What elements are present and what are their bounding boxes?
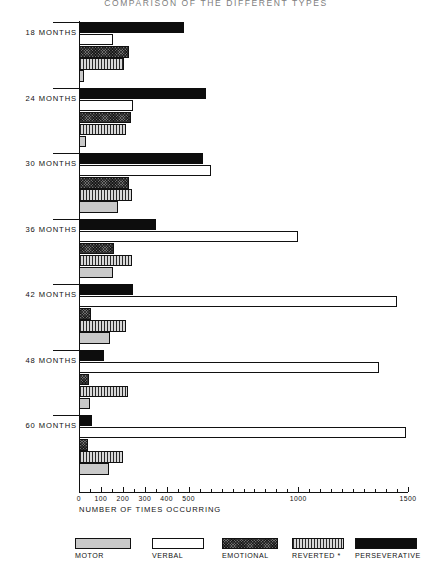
- bar-emot: [79, 308, 91, 319]
- bar-motor: [79, 463, 109, 474]
- x-tick-major: [79, 487, 80, 492]
- x-tick-minor: [342, 489, 343, 492]
- bar-rev: [79, 451, 123, 462]
- x-tick-minor: [112, 489, 113, 492]
- x-tick-minor: [134, 489, 135, 492]
- legend-item-persev[interactable]: PERSEVERATIVE: [355, 538, 417, 560]
- bar-motor: [79, 136, 86, 147]
- legend-label: VERBAL: [152, 552, 204, 560]
- legend-label: PERSEVERATIVE: [355, 552, 417, 560]
- x-tick-major: [408, 487, 409, 492]
- chart-title: COMPARISON OF THE DIFFERENT TYPES: [0, 0, 432, 8]
- x-tick-minor: [309, 489, 310, 492]
- legend-swatch-verbal: [152, 538, 204, 549]
- bar-motor: [79, 70, 84, 81]
- plot-area: 18 MONTHS24 MONTHS30 MONTHS36 MONTHS42 M…: [0, 18, 432, 490]
- x-axis: NUMBER OF TIMES OCCURRING 01002003004005…: [0, 492, 432, 532]
- group-tick: [53, 284, 79, 285]
- bar-motor: [79, 201, 118, 212]
- group-tick: [53, 350, 79, 351]
- bar-rev: [79, 255, 132, 266]
- category-label: 18 MONTHS: [0, 28, 77, 37]
- x-tick-major: [298, 487, 299, 492]
- group-tick: [53, 153, 79, 154]
- bar-emot: [79, 177, 129, 188]
- x-tick-label: 100: [95, 495, 108, 502]
- bar-persev: [79, 153, 203, 164]
- x-tick-major: [189, 487, 190, 492]
- bar-persev: [79, 22, 184, 33]
- category-label: 36 MONTHS: [0, 225, 77, 234]
- x-tick-minor: [386, 489, 387, 492]
- legend-swatch-motor: [75, 538, 131, 549]
- x-tick-label: 0: [77, 495, 81, 502]
- legend-swatch-emot: [222, 538, 278, 549]
- category-label: 60 MONTHS: [0, 421, 77, 430]
- x-tick-minor: [320, 489, 321, 492]
- category-label: 30 MONTHS: [0, 159, 77, 168]
- bar-rev: [79, 320, 126, 331]
- x-tick-minor: [353, 489, 354, 492]
- chart-root: COMPARISON OF THE DIFFERENT TYPES 18 MON…: [0, 0, 432, 584]
- x-tick-major: [101, 487, 102, 492]
- x-tick-major: [167, 487, 168, 492]
- bar-persev: [79, 88, 206, 99]
- bar-emot: [79, 112, 131, 123]
- bar-verbal: [79, 296, 397, 307]
- bar-verbal: [79, 231, 298, 242]
- bar-emot: [79, 46, 129, 57]
- x-tick-major: [123, 487, 124, 492]
- category-label: 42 MONTHS: [0, 290, 77, 299]
- x-tick-minor: [233, 489, 234, 492]
- x-tick-minor: [276, 489, 277, 492]
- x-tick-minor: [254, 489, 255, 492]
- category-label: 24 MONTHS: [0, 94, 77, 103]
- bar-rev: [79, 386, 128, 397]
- bar-verbal: [79, 100, 133, 111]
- bar-verbal: [79, 165, 211, 176]
- x-tick-minor: [265, 489, 266, 492]
- bar-emot: [79, 374, 89, 385]
- chart-legend: MOTORVERBALEMOTIONALREVERTED *PERSEVERAT…: [0, 538, 432, 578]
- x-tick-minor: [200, 489, 201, 492]
- legend-item-rev[interactable]: REVERTED *: [292, 538, 344, 560]
- bar-rev: [79, 189, 132, 200]
- legend-label: REVERTED *: [292, 552, 344, 560]
- group-tick: [53, 22, 79, 23]
- bar-verbal: [79, 362, 379, 373]
- x-tick-label: 500: [182, 495, 195, 502]
- x-tick-label: 1000: [290, 495, 307, 502]
- x-tick-minor: [287, 489, 288, 492]
- legend-swatch-persev: [355, 538, 417, 549]
- bar-persev: [79, 284, 133, 295]
- group-tick: [53, 219, 79, 220]
- legend-item-verbal[interactable]: VERBAL: [152, 538, 204, 560]
- bar-persev: [79, 415, 92, 426]
- x-tick-minor: [90, 489, 91, 492]
- x-axis-label: NUMBER OF TIMES OCCURRING: [79, 505, 221, 514]
- bar-verbal: [79, 427, 406, 438]
- legend-item-motor[interactable]: MOTOR: [75, 538, 131, 560]
- x-tick-label: 300: [138, 495, 151, 502]
- bar-rev: [79, 124, 126, 135]
- bar-motor: [79, 267, 113, 278]
- x-tick-minor: [364, 489, 365, 492]
- x-axis-line: [79, 492, 408, 493]
- x-tick-major: [145, 487, 146, 492]
- x-tick-minor: [222, 489, 223, 492]
- bar-verbal: [79, 34, 113, 45]
- legend-label: EMOTIONAL: [222, 552, 278, 560]
- legend-item-emot[interactable]: EMOTIONAL: [222, 538, 278, 560]
- legend-label: MOTOR: [75, 552, 131, 560]
- bar-motor: [79, 332, 110, 343]
- bar-persev: [79, 219, 156, 230]
- x-tick-minor: [244, 489, 245, 492]
- bar-emot: [79, 439, 88, 450]
- x-tick-minor: [331, 489, 332, 492]
- x-tick-minor: [178, 489, 179, 492]
- x-tick-label: 400: [160, 495, 173, 502]
- legend-swatch-rev: [292, 538, 344, 549]
- bar-motor: [79, 398, 90, 409]
- x-tick-minor: [375, 489, 376, 492]
- bar-persev: [79, 350, 104, 361]
